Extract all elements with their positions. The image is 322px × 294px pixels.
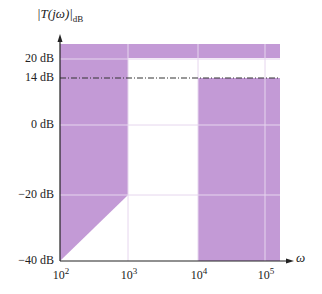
x-axis-arrow-icon [286, 259, 294, 264]
y-axis-title: |T(jω)|dB [37, 6, 83, 24]
bode-magnitude-chart: |T(jω)|dB 20 dB 14 dB 0 dB −20 dB −40 dB… [0, 0, 322, 294]
y-axis-arrow-icon [58, 34, 63, 42]
x-tick-1e3: 103 [114, 266, 144, 283]
y-tick-0db: 0 dB [2, 117, 54, 132]
x-tick-1e4: 104 [184, 266, 214, 283]
y-tick-14db: 14 dB [2, 70, 54, 85]
chart-canvas [0, 0, 322, 294]
x-tick-1e5: 105 [251, 266, 281, 283]
region-top-band [60, 44, 280, 58]
region-high-freq [198, 78, 280, 261]
x-tick-1e2: 102 [46, 266, 76, 283]
x-axis-title: ω [296, 250, 305, 266]
region-low-freq [60, 58, 128, 261]
y-tick-neg20db: −20 dB [2, 187, 54, 202]
y-tick-20db: 20 dB [2, 51, 54, 66]
